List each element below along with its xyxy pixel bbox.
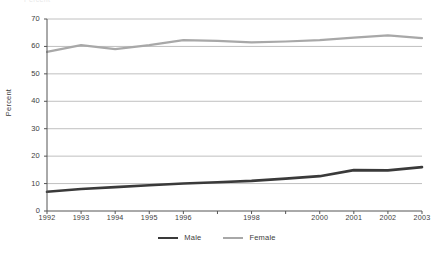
y-axis-tick-label: 30 (16, 124, 40, 133)
x-axis-tick-label: 1995 (132, 213, 166, 222)
x-axis-tick-label: 1998 (235, 213, 269, 222)
y-axis-tick-label: 40 (16, 96, 40, 105)
legend-swatch-female-icon (223, 237, 243, 239)
line-chart: Percent Percent 010203040506070 19921993… (0, 0, 434, 255)
x-axis-tick-label: 2003 (405, 213, 434, 222)
y-axis-tick-label: 10 (16, 179, 40, 188)
x-axis-tick-label: 1993 (64, 213, 98, 222)
x-axis-tick-label: 2000 (303, 213, 337, 222)
series-line-male (47, 167, 422, 192)
legend-item-female[interactable]: Female (223, 234, 275, 242)
y-axis-tick-label: 20 (16, 151, 40, 160)
x-axis-tick-label: 1994 (98, 213, 132, 222)
chart-legend: MaleFemale (0, 234, 434, 242)
x-axis-tick-label: 2001 (337, 213, 371, 222)
y-axis-tick-label: 50 (16, 69, 40, 78)
legend-swatch-male-icon (158, 237, 178, 239)
x-axis-tick-label: 2002 (371, 213, 405, 222)
x-axis-tick-label: 1992 (30, 213, 64, 222)
legend-label: Female (249, 234, 275, 242)
y-axis-title: Percent (4, 73, 13, 133)
y-axis-tick-label: 70 (16, 14, 40, 23)
chart-title-clipped: Percent (24, 0, 144, 5)
legend-label: Male (184, 234, 201, 242)
legend-item-male[interactable]: Male (158, 234, 201, 242)
x-axis-tick-label: 1996 (166, 213, 200, 222)
plot-svg (47, 19, 422, 211)
y-axis-tick-label: 60 (16, 41, 40, 50)
plot-area (47, 19, 422, 211)
series-lines (47, 35, 422, 191)
series-line-female (47, 35, 422, 51)
